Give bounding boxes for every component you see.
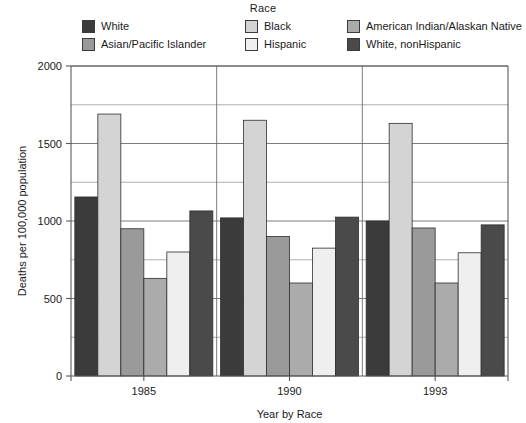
bar — [221, 218, 244, 376]
bar — [481, 225, 504, 376]
bar-series — [75, 114, 504, 376]
legend-title: Race — [0, 2, 526, 14]
y-tick-label: 1500 — [38, 138, 62, 150]
legend-swatch-white — [82, 20, 95, 33]
x-axis-title: Year by Race — [257, 408, 323, 420]
bar — [167, 252, 190, 376]
legend-swatch-hispanic — [245, 38, 258, 51]
chart-svg: 0500100015002000 198519901993 Year by Ra… — [0, 58, 526, 423]
bar — [190, 211, 213, 376]
bar — [435, 283, 458, 376]
legend-column-1: White Asian/Pacific Islander — [82, 18, 206, 54]
legend-item-white-nonhispanic: White, nonHispanic — [347, 36, 522, 52]
bar — [75, 197, 98, 376]
legend-column-2: Black Hispanic — [245, 18, 306, 54]
bar — [98, 114, 121, 376]
legend-item-american-indian-alaskan-native: American Indian/Alaskan Native — [347, 18, 522, 34]
legend-item-white: White — [82, 18, 206, 34]
legend-swatch-white-nonhispanic — [347, 38, 360, 51]
bar — [290, 283, 313, 376]
chart-legend: Race White Asian/Pacific Islander Black … — [0, 0, 526, 58]
bar — [366, 221, 389, 376]
y-tick-label: 2000 — [38, 60, 62, 72]
bar — [389, 123, 412, 376]
legend-label-white: White — [101, 20, 129, 32]
y-axis-title: Deaths per 100,000 population — [16, 146, 28, 296]
legend-swatch-black — [245, 20, 258, 33]
y-tick-label: 1000 — [38, 215, 62, 227]
legend-label-american-indian-alaskan-native: American Indian/Alaskan Native — [366, 20, 522, 32]
bar-chart-plot: 0500100015002000 198519901993 Year by Ra… — [0, 58, 526, 423]
legend-item-hispanic: Hispanic — [245, 36, 306, 52]
legend-swatch-asian-pacific-islander — [82, 38, 95, 51]
bar — [412, 228, 435, 376]
legend-column-3: American Indian/Alaskan Native White, no… — [347, 18, 522, 54]
x-tick-label: 1993 — [423, 385, 447, 397]
legend-label-white-nonhispanic: White, nonHispanic — [366, 38, 461, 50]
x-tick-label: 1990 — [277, 385, 301, 397]
legend-label-hispanic: Hispanic — [264, 38, 306, 50]
legend-label-black: Black — [264, 20, 291, 32]
x-tick-label: 1985 — [132, 385, 156, 397]
y-tick-label: 0 — [56, 370, 62, 382]
y-axis-ticks: 0500100015002000 — [38, 60, 71, 382]
bar — [121, 229, 144, 376]
legend-item-asian-pacific-islander: Asian/Pacific Islander — [82, 36, 206, 52]
bar — [458, 253, 481, 376]
bar — [313, 248, 336, 376]
legend-label-asian-pacific-islander: Asian/Pacific Islander — [101, 38, 206, 50]
bar — [244, 120, 267, 376]
bar — [267, 237, 290, 377]
legend-swatch-american-indian-alaskan-native — [347, 20, 360, 33]
bar — [336, 217, 359, 376]
legend-item-black: Black — [245, 18, 306, 34]
bar — [144, 278, 167, 376]
x-axis-ticks: 198519901993 — [71, 376, 508, 397]
y-tick-label: 500 — [44, 293, 62, 305]
